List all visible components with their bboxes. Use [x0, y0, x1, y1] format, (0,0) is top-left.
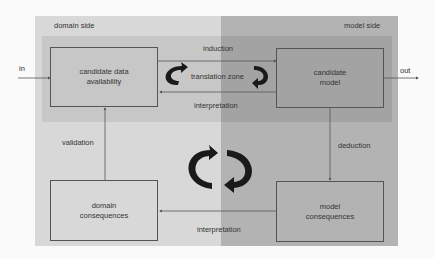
- induction-label: induction: [203, 44, 233, 53]
- translation-zone-label: translation zone: [191, 72, 244, 81]
- out-label: out: [400, 66, 410, 75]
- candidate-model-line2: model: [320, 78, 340, 87]
- in-label: in: [19, 64, 25, 73]
- domain-consequences-line1: domain: [92, 201, 117, 210]
- candidate-model-line1: candidate: [314, 68, 347, 77]
- model-consequences-box: modelconsequences: [276, 181, 384, 242]
- candidate-data-availability-box: candidate dataavailability: [50, 47, 158, 107]
- deduction-label: deduction: [338, 141, 371, 150]
- cycle-arrow-left-large: [189, 145, 219, 189]
- cycle-arrow-left-small: [166, 62, 188, 85]
- candidate-data-line1: candidate data: [79, 67, 128, 76]
- model-consequences-line1: model: [320, 202, 340, 211]
- model-consequences-line2: consequences: [306, 212, 354, 221]
- domain-consequences-box: domainconsequences: [50, 180, 158, 241]
- domain-consequences-line2: consequences: [80, 211, 128, 220]
- validation-label: validation: [62, 138, 94, 147]
- candidate-model-box: candidatemodel: [276, 48, 384, 108]
- cycle-arrow-right-large: [224, 150, 252, 193]
- cycle-arrow-right-small: [252, 66, 268, 89]
- interpretation-top-label: interpretation: [194, 101, 238, 110]
- candidate-data-line2: availability: [87, 77, 122, 86]
- interpretation-bottom-label: interpretation: [197, 225, 241, 234]
